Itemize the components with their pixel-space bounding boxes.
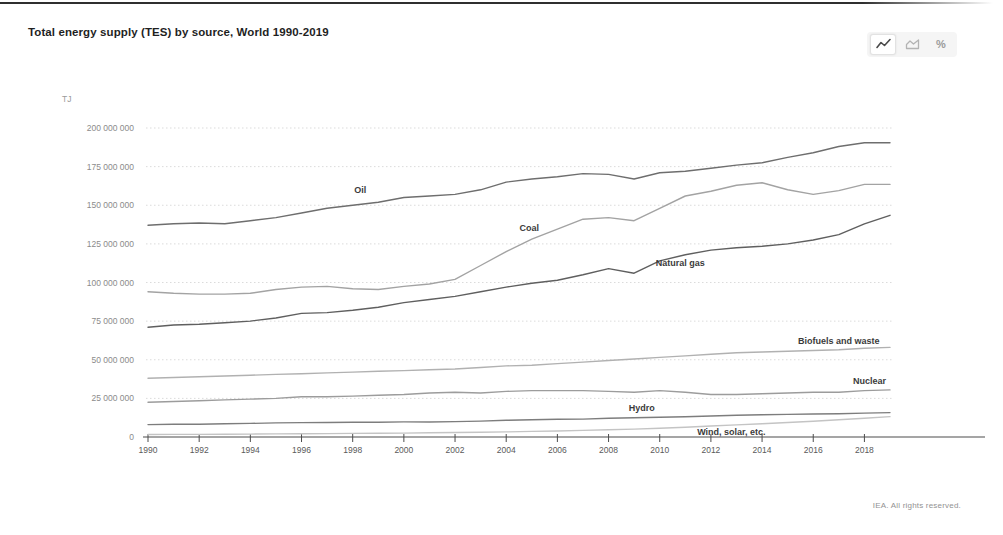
iea-chart-page: Total energy supply (TES) by source, Wor… <box>0 0 1003 535</box>
x-axis-tick-label: 1994 <box>241 445 260 455</box>
series-label-oil: Oil <box>354 185 366 195</box>
y-axis-tick-label: 25 000 000 <box>91 393 134 403</box>
tes-line-chart: 200 000 000175 000 000150 000 000125 000… <box>0 0 1003 535</box>
x-axis-tick-label: 2006 <box>548 445 567 455</box>
x-axis-tick-label: 2014 <box>753 445 772 455</box>
series-line-oil <box>148 143 890 226</box>
x-axis-tick-label: 2008 <box>599 445 618 455</box>
series-label-biofuels-waste: Biofuels and waste <box>798 336 880 346</box>
series-line-coal <box>148 183 890 294</box>
x-axis-tick-label: 2010 <box>650 445 669 455</box>
series-line-wind-solar <box>148 417 890 435</box>
series-label-natural-gas: Natural gas <box>656 258 705 268</box>
y-axis-tick-label: 200 000 000 <box>87 123 135 133</box>
x-axis-tick-label: 1990 <box>139 445 158 455</box>
x-axis-tick-label: 2004 <box>497 445 516 455</box>
x-axis-tick-label: 1992 <box>190 445 209 455</box>
y-axis-tick-label: 100 000 000 <box>87 278 135 288</box>
y-axis-tick-label: 75 000 000 <box>91 316 134 326</box>
series-label-nuclear: Nuclear <box>853 376 887 386</box>
y-axis-tick-label: 125 000 000 <box>87 239 135 249</box>
x-axis-tick-label: 2000 <box>394 445 413 455</box>
series-label-hydro: Hydro <box>629 403 656 413</box>
x-axis-tick-label: 2012 <box>701 445 720 455</box>
copyright-notice: IEA. All rights reserved. <box>873 501 961 510</box>
x-axis-tick-label: 2016 <box>804 445 823 455</box>
x-axis-tick-label: 1998 <box>343 445 362 455</box>
y-axis-tick-label: 0 <box>129 432 134 442</box>
x-axis-tick-label: 2018 <box>855 445 874 455</box>
x-axis-tick-label: 1996 <box>292 445 311 455</box>
series-label-coal: Coal <box>519 223 539 233</box>
x-axis-tick-label: 2002 <box>446 445 465 455</box>
y-axis-tick-label: 50 000 000 <box>91 355 134 365</box>
series-label-wind-solar: Wind, solar, etc. <box>697 427 765 437</box>
series-line-biofuels-waste <box>148 347 890 378</box>
y-axis-tick-label: 150 000 000 <box>87 200 135 210</box>
series-line-nuclear <box>148 390 890 402</box>
y-axis-tick-label: 175 000 000 <box>87 162 135 172</box>
